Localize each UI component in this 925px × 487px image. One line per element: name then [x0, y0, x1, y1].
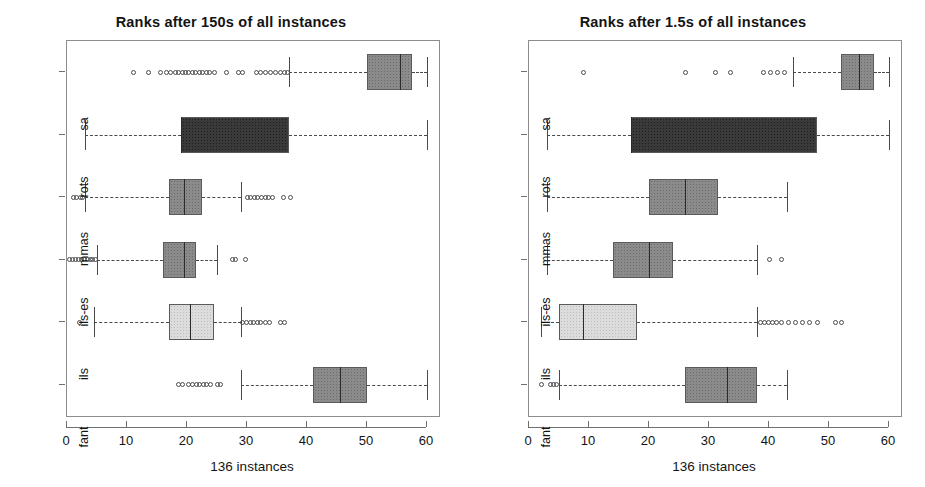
- x-tick-30: [708, 421, 709, 427]
- outlier-sa-17: [224, 70, 229, 75]
- x-tick-label-30: 30: [231, 433, 261, 448]
- panel-left-plot-frame: [66, 40, 440, 417]
- cap-high-sa: [889, 57, 890, 87]
- cap-high-rots: [427, 120, 428, 150]
- outlier-ils-5: [779, 320, 784, 325]
- y-tick-label-rots: rots: [539, 157, 553, 217]
- outlier-ils-11: [833, 320, 838, 325]
- x-tick-label-40: 40: [291, 433, 321, 448]
- boxplot-figure: Ranks after 150s of all instances 010203…: [0, 0, 925, 487]
- cap-high-fant: [787, 370, 788, 400]
- panel-left-title: Ranks after 150s of all instances: [0, 14, 462, 30]
- x-tick-label-50: 50: [351, 433, 381, 448]
- cap-high-mmas: [787, 182, 788, 212]
- x-tick-60: [888, 421, 889, 427]
- cap-high-rots: [889, 120, 890, 150]
- panel-right-plot-area: [529, 41, 901, 416]
- outlier-sa-7: [782, 70, 787, 75]
- outlier-ils-es-0: [767, 257, 772, 262]
- outlier-ils-es-9: [93, 257, 98, 262]
- whisker-high-ils: [637, 322, 757, 323]
- x-tick-60: [426, 421, 427, 427]
- whisker-high-sa: [412, 72, 427, 73]
- y-tick-label-ils-es: ils-es: [539, 282, 553, 342]
- median-ils: [583, 304, 584, 340]
- outlier-sa-4: [761, 70, 766, 75]
- outlier-ils-es-12: [243, 257, 248, 262]
- y-tick-label-mmas: mmas: [77, 219, 91, 279]
- outlier-sa-0: [131, 70, 136, 75]
- outlier-ils-7: [793, 320, 798, 325]
- y-tick-fant: [521, 384, 527, 385]
- y-tick-label-ils: ils: [77, 344, 91, 404]
- y-tick-ils-es: [59, 259, 65, 260]
- median-rots: [631, 117, 632, 153]
- panel-right-title: Ranks after 1.5s of all instances: [462, 14, 924, 30]
- whisker-high-sa: [874, 72, 889, 73]
- outlier-sa-24: [273, 70, 278, 75]
- box-ils: [169, 304, 214, 340]
- y-tick-ils: [59, 321, 65, 322]
- whisker-low-mmas: [85, 197, 169, 198]
- whisker-high-mmas: [718, 197, 787, 198]
- y-tick-fant: [59, 384, 65, 385]
- x-tick-20: [648, 421, 649, 427]
- outlier-sa-0: [581, 70, 586, 75]
- cap-low-fant: [241, 370, 242, 400]
- x-tick-label-40: 40: [753, 433, 783, 448]
- median-ils-es: [184, 242, 185, 278]
- median-rots: [181, 117, 182, 153]
- y-tick-ils: [521, 321, 527, 322]
- outlier-sa-1: [146, 70, 151, 75]
- x-tick-label-60: 60: [873, 433, 903, 448]
- box-fant: [685, 367, 757, 403]
- y-tick-label-mmas: mmas: [539, 219, 553, 279]
- x-tick-label-10: 10: [111, 433, 141, 448]
- box-ils-es: [163, 242, 196, 278]
- box-sa: [367, 54, 412, 90]
- whisker-high-fant: [367, 385, 427, 386]
- y-tick-label-sa: sa: [539, 94, 553, 154]
- outlier-fant-1: [180, 382, 185, 387]
- x-tick-10: [126, 421, 127, 427]
- x-tick-10: [588, 421, 589, 427]
- panel-right-plot-frame: [528, 40, 902, 417]
- cap-low-ils: [94, 307, 95, 337]
- outlier-sa-19: [240, 70, 245, 75]
- outlier-sa-2: [713, 70, 718, 75]
- median-sa: [400, 54, 401, 90]
- y-tick-rots: [59, 134, 65, 135]
- whisker-low-ils: [94, 322, 169, 323]
- box-rots: [631, 117, 817, 153]
- x-tick-label-20: 20: [171, 433, 201, 448]
- cap-high-sa: [427, 57, 428, 87]
- whisker-low-rots: [547, 135, 631, 136]
- x-tick-label-30: 30: [693, 433, 723, 448]
- outlier-sa-3: [728, 70, 733, 75]
- x-axis-line: [528, 427, 888, 428]
- outlier-ils-9: [807, 320, 812, 325]
- median-sa: [859, 54, 860, 90]
- x-tick-0: [66, 421, 67, 427]
- outlier-fant-10: [218, 382, 223, 387]
- y-tick-mmas: [521, 196, 527, 197]
- outlier-mmas-12: [281, 195, 286, 200]
- whisker-high-mmas: [202, 197, 241, 198]
- x-tick-40: [768, 421, 769, 427]
- box-mmas: [169, 179, 202, 215]
- whisker-low-sa: [793, 72, 841, 73]
- cap-high-ils-es: [217, 245, 218, 275]
- y-tick-label-fant: fant: [539, 407, 553, 467]
- whisker-high-ils-es: [673, 260, 757, 261]
- whisker-high-rots: [289, 135, 427, 136]
- outlier-fant-8: [208, 382, 213, 387]
- y-tick-mmas: [59, 196, 65, 197]
- y-tick-sa: [59, 71, 65, 72]
- panel-left-x-axis-label: 136 instances: [66, 459, 438, 474]
- x-axis-line: [66, 427, 426, 428]
- outlier-sa-16: [212, 70, 217, 75]
- median-mmas: [685, 179, 686, 215]
- box-rots: [181, 117, 289, 153]
- outlier-sa-1: [683, 70, 688, 75]
- outlier-mmas-13: [288, 195, 293, 200]
